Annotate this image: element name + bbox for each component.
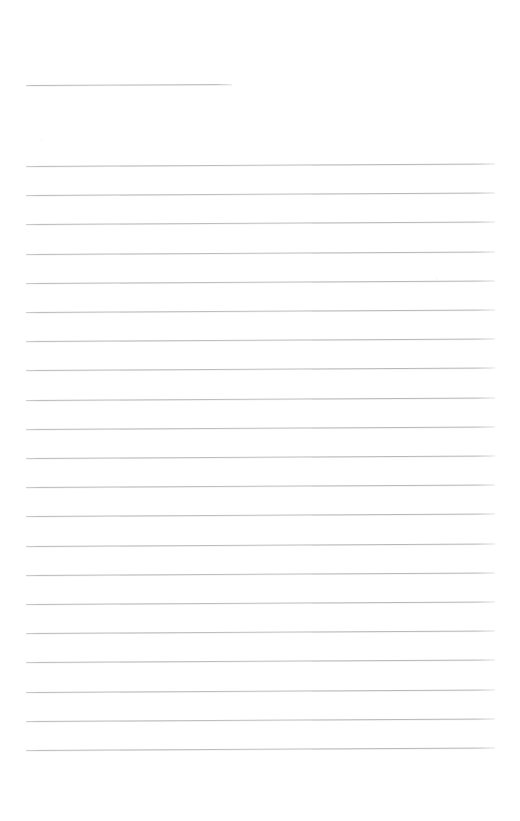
notepaper-page [0,0,520,821]
ruled-line[interactable] [26,339,495,342]
ruled-line[interactable] [26,719,495,722]
paper-grain-texture [0,0,520,821]
ruled-line[interactable] [26,514,495,517]
ruled-line[interactable] [26,222,495,225]
ruled-line[interactable] [26,398,495,401]
ruled-line[interactable] [26,690,495,693]
paper-surface [0,0,520,821]
ruled-line[interactable] [26,573,495,576]
ruled-line[interactable] [26,660,495,663]
header-rule [26,84,232,86]
ruled-line[interactable] [26,252,495,255]
ruled-line[interactable] [26,310,495,313]
ruled-line[interactable] [26,281,495,284]
ruled-line[interactable] [26,602,495,605]
ruled-line[interactable] [26,748,495,751]
ruled-line[interactable] [26,164,495,167]
ruled-line[interactable] [26,631,495,634]
ruled-line[interactable] [26,427,495,430]
ruled-line[interactable] [26,485,495,488]
ruled-line[interactable] [26,193,495,196]
ruled-line[interactable] [26,456,495,459]
ruled-line[interactable] [26,544,495,547]
ruled-line[interactable] [26,368,495,371]
